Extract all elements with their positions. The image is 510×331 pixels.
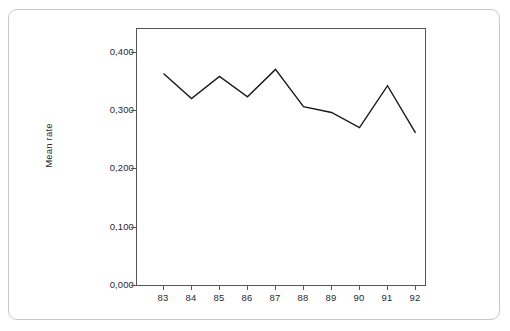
plot-frame [137,29,426,286]
y-axis-ticks [131,53,136,286]
line-chart: Mean rate 0,400 0,300 0,200 0,100 0,000 … [0,0,510,331]
figure-root: Mean rate 0,400 0,300 0,200 0,100 0,000 … [0,0,510,331]
data-series-line [164,69,416,132]
plot-canvas [0,0,510,331]
